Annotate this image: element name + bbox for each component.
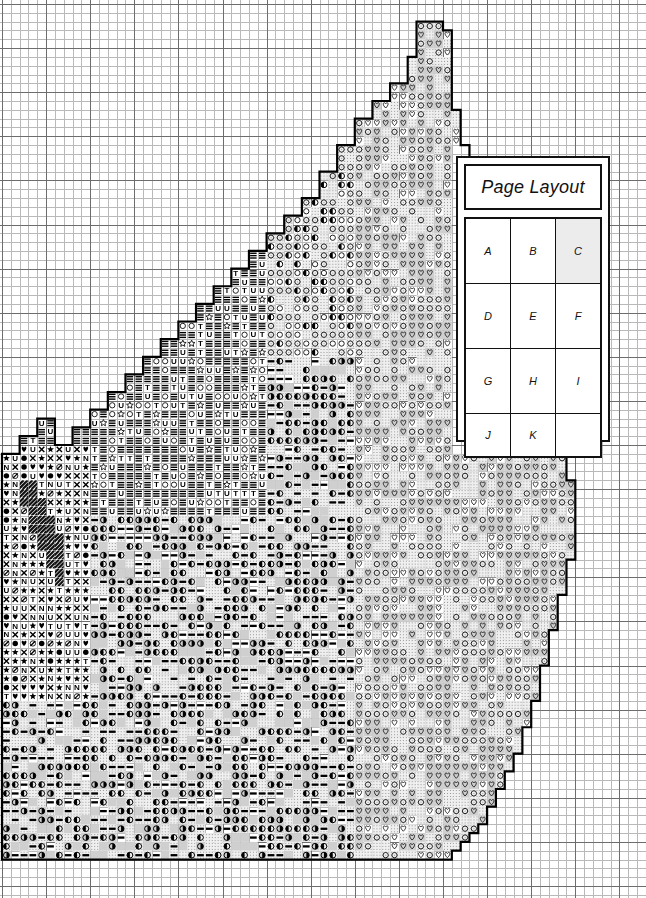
page-cell-i[interactable]: I — [556, 349, 601, 414]
page-layout-row: ABC — [465, 218, 601, 284]
page-cell-e[interactable]: E — [510, 284, 555, 349]
page-cell-f[interactable]: F — [556, 284, 601, 349]
page-cell-c[interactable]: C — [556, 218, 601, 284]
page-layout-table: ABCDEFGHIJK — [464, 217, 602, 458]
page-cell-k[interactable]: K — [510, 414, 555, 458]
pattern-chart-page: Page Layout ABCDEFGHIJK — [0, 0, 646, 898]
page-cell-j[interactable]: J — [465, 414, 510, 458]
page-layout-row: JK — [465, 414, 601, 458]
page-cell-h[interactable]: H — [510, 349, 555, 414]
page-cell-d[interactable]: D — [465, 284, 510, 349]
page-layout-legend: Page Layout ABCDEFGHIJK — [456, 156, 610, 442]
page-cell-b[interactable]: B — [510, 218, 555, 284]
page-layout-row: DEF — [465, 284, 601, 349]
legend-title-box: Page Layout — [464, 164, 602, 210]
page-cell-g[interactable]: G — [465, 349, 510, 414]
page-cell-empty[interactable] — [556, 414, 601, 458]
page-layout-row: GHI — [465, 349, 601, 414]
legend-title: Page Layout — [481, 177, 584, 198]
page-cell-a[interactable]: A — [465, 218, 510, 284]
